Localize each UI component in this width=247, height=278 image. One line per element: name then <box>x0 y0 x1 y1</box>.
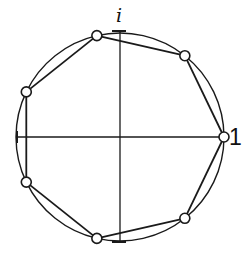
polygon-edge <box>97 218 185 238</box>
polygon-edge <box>26 36 97 92</box>
real-unit-label: 1 <box>229 124 242 151</box>
root-node-3 <box>21 87 31 97</box>
unit-circle-diagram <box>0 0 247 278</box>
imaginary-unit-label: i <box>116 4 122 26</box>
root-node-4 <box>21 177 31 187</box>
polygon-edge <box>97 36 185 56</box>
root-node-0 <box>219 132 229 142</box>
root-node-2 <box>92 31 102 41</box>
root-node-1 <box>180 51 190 61</box>
root-node-5 <box>92 233 102 243</box>
root-node-6 <box>180 213 190 223</box>
polygon-edge <box>26 182 97 238</box>
polygon-edge <box>185 56 224 137</box>
polygon-edge <box>185 137 224 218</box>
